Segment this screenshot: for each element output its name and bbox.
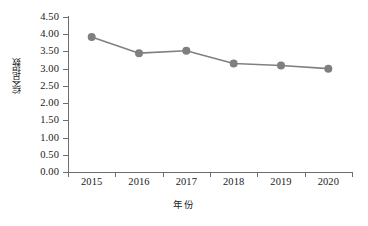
chart-figure: 0.000.501.001.502.002.503.003.504.004.50…	[0, 0, 368, 226]
data-point-marker	[182, 47, 190, 55]
series-polyline	[92, 37, 329, 69]
data-point-marker	[277, 62, 285, 70]
data-point-marker	[88, 33, 96, 41]
x-axis-title: 年份	[0, 200, 368, 210]
y-axis-title: 综合指数	[12, 58, 26, 94]
series-line-comprehensive-index	[0, 0, 368, 226]
data-point-marker	[324, 65, 332, 73]
data-point-marker	[135, 49, 143, 57]
data-point-marker	[230, 60, 238, 68]
